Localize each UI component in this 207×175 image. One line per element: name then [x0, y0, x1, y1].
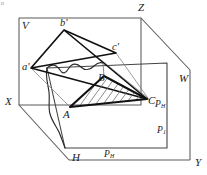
label-axis-x: X	[5, 96, 12, 107]
label-plane-v: V	[22, 20, 29, 31]
edge-z-w	[141, 18, 190, 70]
label-axis-y: Y	[195, 157, 201, 168]
label-vertex-c: C	[148, 95, 155, 106]
label-trace-ph-right: PH	[155, 100, 165, 110]
corner-mark: n	[1, 0, 4, 6]
trace-ph-right-sub: H	[161, 103, 165, 109]
label-vertex-a: A	[63, 109, 70, 120]
trace-p1-sub: 1	[163, 129, 166, 135]
label-vertex-b: B	[98, 72, 105, 83]
label-trace-p1: P1	[157, 126, 166, 136]
label-vertex-b-prime: b'	[60, 18, 68, 29]
trace-ph-bottom-sub: H	[110, 153, 114, 159]
label-vertex-a-prime: a'	[22, 62, 30, 73]
label-trace-ph-bottom: PH	[104, 150, 114, 160]
label-plane-w: W	[179, 73, 188, 84]
figure-canvas: n V Z W X Y H PH PH P1 a' b' c' A B C	[0, 0, 207, 175]
trace-ph-bottom-base: P	[104, 149, 110, 159]
label-plane-h: H	[72, 152, 80, 163]
trace-ph-right-base: P	[155, 99, 161, 109]
trace-p1-base: P	[157, 125, 163, 135]
label-vertex-c-prime: c'	[112, 42, 119, 53]
projection-box-frame	[19, 18, 190, 160]
label-axis-z: Z	[138, 2, 144, 13]
